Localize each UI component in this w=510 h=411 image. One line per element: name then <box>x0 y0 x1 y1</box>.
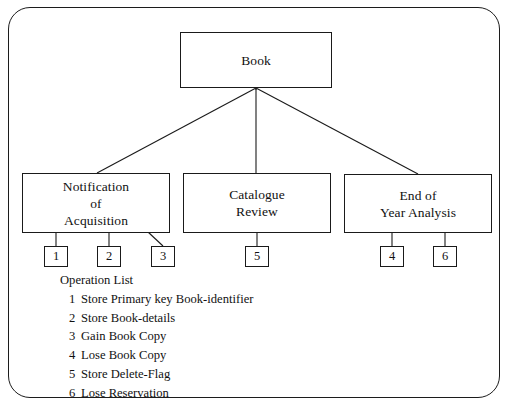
node-notification-of-acquisition[interactable]: Notification of Acquisition <box>22 173 170 233</box>
node-notification-line-2: Acquisition <box>64 212 128 229</box>
operation-list-item-5-number: 5 <box>69 365 81 384</box>
connector-notification-to-op3 <box>148 232 163 246</box>
operation-list-item-6: 6Lose Reservation <box>60 384 253 403</box>
node-endofyear-line-1: Year Analysis <box>380 204 456 221</box>
operation-list-title: Operation List <box>60 271 253 290</box>
operation-list-item-4-number: 4 <box>69 346 81 365</box>
operation-box-3-number: 3 <box>160 249 166 264</box>
operation-box-4-number: 4 <box>389 249 395 264</box>
node-catalogue-review[interactable]: Catalogue Review <box>183 173 331 233</box>
operation-list-item-4-text: Lose Book Copy <box>81 348 166 362</box>
operation-box-1-number: 1 <box>53 249 59 264</box>
operation-list-item-3-number: 3 <box>69 327 81 346</box>
node-endofyear-line-0: End of <box>400 187 437 204</box>
operation-list-item-2-number: 2 <box>69 309 81 328</box>
operation-list-item-5-text: Store Delete-Flag <box>81 367 170 381</box>
operation-box-6[interactable]: 6 <box>433 246 457 267</box>
node-catalogue-line-1: Review <box>236 203 278 220</box>
operation-list-item-1: 1Store Primary key Book-identifier <box>60 290 253 309</box>
operation-box-2-number: 2 <box>106 249 112 264</box>
operation-list-item-2-text: Store Book-details <box>81 311 175 325</box>
node-notification-line-1: of <box>90 195 101 212</box>
operation-list-item-6-number: 6 <box>69 384 81 403</box>
operation-list: Operation List 1Store Primary key Book-i… <box>60 271 253 402</box>
node-notification-line-0: Notification <box>63 178 129 195</box>
operation-list-item-3: 3Gain Book Copy <box>60 327 253 346</box>
connector-book-to-end-of-year <box>256 88 418 174</box>
connector-book-to-notification <box>97 88 256 173</box>
operation-box-4[interactable]: 4 <box>380 246 404 267</box>
node-book-line-0: Book <box>241 52 271 69</box>
diagram-canvas: Book Notification of Acquisition Catalog… <box>0 0 510 411</box>
node-end-of-year-analysis[interactable]: End of Year Analysis <box>344 174 492 233</box>
operation-list-item-6-text: Lose Reservation <box>81 386 169 400</box>
operation-list-item-1-text: Store Primary key Book-identifier <box>81 292 253 306</box>
operation-box-2[interactable]: 2 <box>97 246 121 267</box>
node-catalogue-line-0: Catalogue <box>229 186 285 203</box>
node-book[interactable]: Book <box>180 32 332 88</box>
operation-list-item-5: 5Store Delete-Flag <box>60 365 253 384</box>
operation-list-item-4: 4Lose Book Copy <box>60 346 253 365</box>
operation-list-item-1-number: 1 <box>69 290 81 309</box>
operation-list-item-2: 2Store Book-details <box>60 309 253 328</box>
operation-list-item-3-text: Gain Book Copy <box>81 329 166 343</box>
operation-box-5-number: 5 <box>254 249 260 264</box>
operation-box-3[interactable]: 3 <box>151 246 175 267</box>
operation-box-5[interactable]: 5 <box>245 246 269 267</box>
operation-box-6-number: 6 <box>442 249 448 264</box>
operation-box-1[interactable]: 1 <box>44 246 68 267</box>
